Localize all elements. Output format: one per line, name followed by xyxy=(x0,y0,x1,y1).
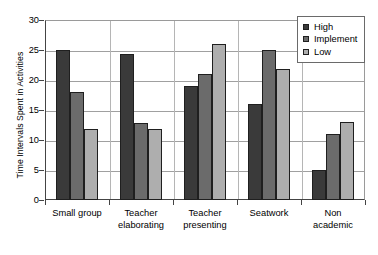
y-tick-mark xyxy=(39,50,44,51)
x-axis-label-line: Teacher xyxy=(109,208,173,220)
x-axis-label: Teacherelaborating xyxy=(109,208,173,231)
gridline xyxy=(46,81,364,82)
x-axis-label: Seatwork xyxy=(237,208,301,220)
gridline xyxy=(46,111,364,112)
bar-chart: Time Intervals Spent in Activities 05101… xyxy=(0,0,378,255)
x-axis-label-line: presenting xyxy=(173,220,237,232)
legend-item: High xyxy=(303,21,357,33)
x-axis-label: Small group xyxy=(45,208,109,220)
legend-swatch-icon xyxy=(303,49,309,55)
x-tick-mark xyxy=(237,200,238,205)
y-tick-label: 0 xyxy=(13,195,39,205)
group-separator xyxy=(238,21,239,199)
y-tick-label: 25 xyxy=(13,45,39,55)
legend-label: Implement xyxy=(314,34,357,44)
group-separator xyxy=(174,21,175,199)
x-axis-label-line: academic xyxy=(301,220,365,232)
y-axis-ticks: 051015202530 xyxy=(11,20,39,200)
y-tick-mark xyxy=(39,20,44,21)
legend-swatch-icon xyxy=(303,24,309,30)
y-tick-label: 15 xyxy=(13,105,39,115)
legend-swatch-icon xyxy=(303,36,309,42)
legend: HighImplementLow xyxy=(297,16,365,63)
legend-item: Low xyxy=(303,46,357,58)
x-axis-label-line: Non xyxy=(301,208,365,220)
gridline xyxy=(46,141,364,142)
x-axis-label-line: Small group xyxy=(45,208,109,220)
legend-label: High xyxy=(314,22,333,32)
y-tick-label: 30 xyxy=(13,15,39,25)
x-axis-label: Nonacademic xyxy=(301,208,365,231)
y-tick-label: 5 xyxy=(13,165,39,175)
x-tick-mark xyxy=(301,200,302,205)
legend-item: Implement xyxy=(303,33,357,45)
x-tick-mark xyxy=(173,200,174,205)
y-tick-mark xyxy=(39,140,44,141)
group-separator xyxy=(110,21,111,199)
y-tick-mark xyxy=(39,80,44,81)
x-axis-label: Teacherpresenting xyxy=(173,208,237,231)
y-tick-label: 10 xyxy=(13,135,39,145)
x-axis-label-line: Seatwork xyxy=(237,208,301,220)
legend-label: Low xyxy=(314,47,331,57)
gridline xyxy=(46,171,364,172)
y-tick-mark xyxy=(39,110,44,111)
x-tick-mark xyxy=(365,200,366,205)
y-tick-mark xyxy=(39,200,44,201)
x-tick-mark xyxy=(45,200,46,205)
y-tick-label: 20 xyxy=(13,75,39,85)
x-axis-label-line: elaborating xyxy=(109,220,173,232)
y-tick-mark xyxy=(39,170,44,171)
x-tick-mark xyxy=(109,200,110,205)
x-axis-label-line: Teacher xyxy=(173,208,237,220)
